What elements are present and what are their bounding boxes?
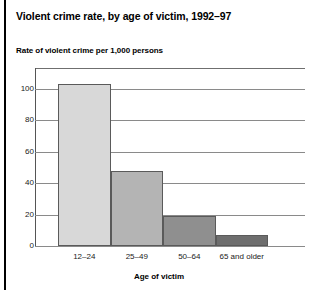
x-tick-label: 65 and older bbox=[216, 252, 269, 261]
x-axis-line bbox=[35, 246, 305, 247]
y-tick-label: 20 bbox=[0, 211, 34, 219]
x-tick-label: 25–49 bbox=[111, 252, 164, 261]
bar bbox=[216, 235, 269, 246]
x-axis-label: Age of victim bbox=[0, 272, 318, 281]
x-tick-label: 12–24 bbox=[58, 252, 111, 261]
plot-area: 020406080100 12–2425–4950–6465 and older bbox=[0, 0, 318, 290]
y-tick-label: 80 bbox=[0, 116, 34, 124]
bar bbox=[58, 84, 111, 246]
bar bbox=[111, 171, 164, 246]
bar bbox=[163, 216, 216, 246]
y-tick-label: 60 bbox=[0, 148, 34, 156]
plot-top-rule bbox=[35, 68, 305, 69]
chart-figure: Violent crime rate, by age of victim, 19… bbox=[0, 0, 318, 290]
y-axis-line bbox=[35, 68, 36, 247]
y-tick-label: 100 bbox=[0, 85, 34, 93]
x-tick-label: 50–64 bbox=[163, 252, 216, 261]
y-tick-label: 40 bbox=[0, 179, 34, 187]
y-tick-label: 0 bbox=[0, 242, 34, 250]
